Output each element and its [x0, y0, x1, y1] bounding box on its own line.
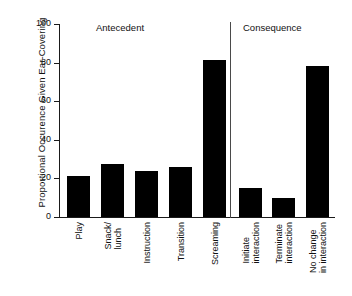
y-tick-label: 60	[11, 96, 51, 105]
x-tick-label: No changein interaction	[306, 222, 329, 292]
group-divider-line	[230, 22, 231, 218]
x-tick-label-text: Snack/lunch	[103, 222, 123, 250]
x-axis-line	[59, 217, 335, 218]
bar	[67, 176, 90, 217]
y-tick-label: 100	[11, 19, 51, 28]
x-tick-label-text: No changein interaction	[308, 222, 328, 273]
x-tick-label: Screaming	[203, 222, 226, 292]
x-tick-label-text: Terminateinteraction	[274, 222, 294, 264]
bar	[272, 198, 295, 217]
group-label-antecedent: Antecedent	[96, 22, 144, 33]
bar	[169, 167, 192, 217]
bar	[101, 164, 124, 217]
plot-area	[59, 24, 335, 217]
x-tick-label: Instruction	[135, 222, 158, 292]
x-tick-label-text: Instruction	[142, 222, 152, 264]
y-tick-label: 0	[11, 212, 51, 221]
bar-chart-figure: Proportional Occurence Given Ear-Coverin…	[0, 0, 352, 296]
y-tick-mark	[54, 217, 59, 218]
x-tick-label-text: Transition	[176, 222, 186, 261]
bar	[135, 171, 158, 217]
x-tick-label-text: Initiateinteraction	[241, 222, 261, 264]
x-tick-label: Initiateinteraction	[239, 222, 262, 292]
y-tick-label: 20	[11, 173, 51, 182]
bar	[203, 60, 226, 217]
x-tick-label: Terminateinteraction	[272, 222, 295, 292]
y-tick-label: 40	[11, 135, 51, 144]
x-tick-label: Transition	[169, 222, 192, 292]
y-axis-title: Proportional Occurence Given Ear-Coverin…	[36, 0, 47, 228]
x-tick-label: Snack/lunch	[101, 222, 124, 292]
x-tick-label-text: Play	[74, 222, 84, 240]
bar	[239, 188, 262, 217]
group-label-consequence: Consequence	[243, 22, 302, 33]
x-tick-label: Play	[67, 222, 90, 292]
x-tick-label-text: Screaming	[210, 222, 220, 265]
bar	[306, 66, 329, 218]
y-tick-label: 80	[11, 58, 51, 67]
